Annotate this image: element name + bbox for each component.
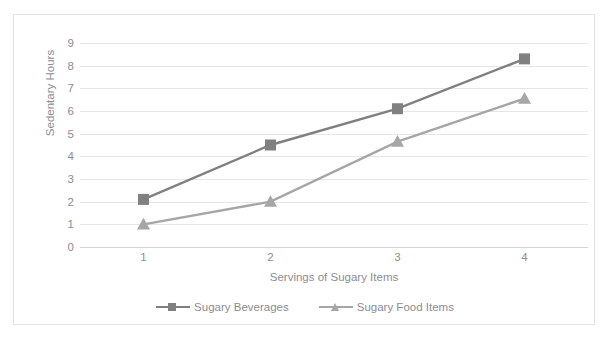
y-tick-label: 8 (48, 60, 74, 72)
top-caption-strip (0, 0, 610, 12)
legend-label: Sugary Food Items (357, 301, 454, 313)
y-tick-label: 4 (48, 150, 74, 162)
y-axis-tick-labels: 0123456789 (44, 43, 74, 247)
y-tick-label: 2 (48, 196, 74, 208)
y-tick-label: 0 (48, 241, 74, 253)
x-tick-label: 2 (251, 251, 291, 263)
legend-entry[interactable]: Sugary Food Items (319, 301, 454, 313)
data-point-marker (519, 53, 530, 64)
x-tick-label: 4 (505, 251, 545, 263)
y-tick-label: 6 (48, 105, 74, 117)
plot-area (80, 43, 588, 247)
chart-frame: Sedentary Hours 0123456789 1234 Servings… (13, 14, 595, 325)
chart-figure: Sedentary Hours 0123456789 1234 Servings… (0, 0, 610, 339)
y-tick-label: 1 (48, 218, 74, 230)
x-tick-label: 1 (124, 251, 164, 263)
legend-entry[interactable]: Sugary Beverages (156, 301, 289, 313)
series-layer (80, 43, 588, 247)
data-point-marker (265, 140, 276, 151)
data-point-marker (392, 103, 403, 114)
series-sugary-food-items (137, 92, 531, 230)
y-tick-label: 5 (48, 128, 74, 140)
x-axis-title: Servings of Sugary Items (80, 271, 588, 283)
y-tick-label: 3 (48, 173, 74, 185)
x-axis-tick-labels: 1234 (80, 251, 588, 269)
y-tick-label: 7 (48, 82, 74, 94)
series-line (144, 99, 525, 225)
series-sugary-beverages (138, 53, 530, 205)
data-point-marker (138, 194, 149, 205)
gridline-0 (80, 247, 588, 248)
chart-legend: Sugary BeveragesSugary Food Items (14, 301, 596, 313)
y-tick-label: 9 (48, 37, 74, 49)
data-point-marker (518, 92, 531, 104)
legend-label: Sugary Beverages (194, 301, 289, 313)
series-line (144, 59, 525, 200)
data-point-marker (264, 195, 277, 207)
x-tick-label: 3 (378, 251, 418, 263)
legend-square-icon (156, 301, 190, 313)
legend-triangle-icon (319, 301, 353, 313)
